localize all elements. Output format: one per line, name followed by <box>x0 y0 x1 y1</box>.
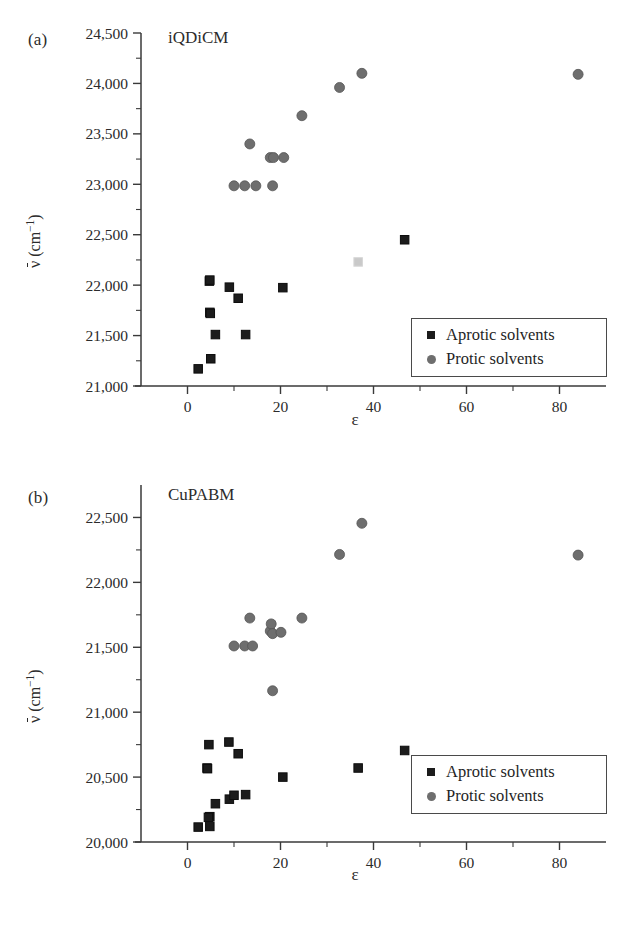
legend-label-aprotic: Aprotic solvents <box>446 762 555 782</box>
data-point-protic <box>297 613 307 623</box>
panel-a-plot: 21,00021,50022,00022,50023,00023,50024,0… <box>0 0 631 463</box>
y-tick-label: 22,500 <box>85 509 128 526</box>
data-point-aprotic <box>211 330 220 339</box>
x-tick-label: 80 <box>552 854 568 871</box>
data-point-aprotic <box>234 749 243 758</box>
data-point-protic <box>268 181 278 191</box>
panel-b-plot: 20,00020,50021,00021,50022,00022,5000204… <box>0 455 631 926</box>
data-point-aprotic <box>354 258 363 267</box>
data-point-protic <box>240 181 250 191</box>
x-tick-label: 0 <box>184 854 192 871</box>
data-point-protic <box>229 641 239 651</box>
aprotic-square-icon <box>422 331 440 339</box>
protic-circle-icon <box>422 355 440 364</box>
data-point-protic <box>357 518 367 528</box>
data-point-protic <box>279 153 289 163</box>
protic-circle-icon <box>422 792 440 801</box>
panel-a: (a) iQDiCM ν (cm−1) ε 21,00021,50022,000… <box>0 0 631 463</box>
data-point-protic <box>266 619 276 629</box>
data-point-aprotic <box>241 330 250 339</box>
legend-item-aprotic: Aprotic solvents <box>422 323 594 347</box>
data-point-aprotic <box>354 764 363 773</box>
data-point-aprotic <box>211 799 220 808</box>
data-point-aprotic <box>225 283 234 292</box>
y-tick-label: 22,500 <box>85 226 128 243</box>
legend-item-aprotic: Aprotic solvents <box>422 760 594 784</box>
y-tick-label: 21,500 <box>85 327 128 344</box>
data-point-protic <box>268 686 278 696</box>
data-point-protic <box>251 181 261 191</box>
data-point-aprotic <box>204 813 213 822</box>
y-tick-label: 23,000 <box>85 176 128 193</box>
panel-a-legend: Aprotic solvents Protic solvents <box>411 318 607 377</box>
data-point-aprotic <box>400 236 409 245</box>
x-tick-label: 0 <box>184 398 192 415</box>
x-tick-label: 40 <box>366 398 382 415</box>
data-point-aprotic <box>241 790 250 799</box>
x-tick-label: 60 <box>459 854 475 871</box>
data-point-aprotic <box>225 738 234 747</box>
panel-b: (b) CuPABM ν (cm−1) ε 20,00020,50021,000… <box>0 455 631 926</box>
data-point-protic <box>335 82 345 92</box>
data-point-protic <box>269 153 279 163</box>
y-tick-label: 22,000 <box>85 574 128 591</box>
y-tick-label: 24,000 <box>85 75 128 92</box>
y-tick-label: 23,500 <box>85 125 128 142</box>
y-tick-label: 21,000 <box>85 704 128 721</box>
x-tick-label: 20 <box>273 854 289 871</box>
y-tick-label: 21,500 <box>85 639 128 656</box>
data-point-aprotic <box>203 764 212 773</box>
legend-label-protic: Protic solvents <box>446 349 544 369</box>
data-point-aprotic <box>279 283 288 292</box>
y-tick-label: 20,000 <box>85 834 128 851</box>
y-tick-label: 20,500 <box>85 769 128 786</box>
data-point-aprotic <box>207 355 216 364</box>
legend-label-protic: Protic solvents <box>446 786 544 806</box>
data-point-aprotic <box>206 276 215 285</box>
y-tick-label: 22,000 <box>85 277 128 294</box>
data-point-aprotic <box>206 822 215 831</box>
data-point-protic <box>573 69 583 79</box>
figure-container: (a) iQDiCM ν (cm−1) ε 21,00021,50022,000… <box>0 0 631 926</box>
data-point-aprotic <box>279 773 288 782</box>
panel-b-legend: Aprotic solvents Protic solvents <box>411 755 607 814</box>
x-tick-label: 20 <box>273 398 289 415</box>
x-tick-label: 80 <box>552 398 568 415</box>
legend-item-protic: Protic solvents <box>422 784 594 808</box>
x-tick-label: 40 <box>366 854 382 871</box>
y-tick-label: 21,000 <box>85 378 128 395</box>
data-point-aprotic <box>400 746 409 755</box>
legend-item-protic: Protic solvents <box>422 347 594 371</box>
data-point-protic <box>335 549 345 559</box>
data-point-protic <box>245 613 255 623</box>
x-tick-label: 60 <box>459 398 475 415</box>
data-point-protic <box>573 550 583 560</box>
aprotic-square-icon <box>422 768 440 776</box>
data-point-aprotic <box>234 294 243 303</box>
data-point-protic <box>357 68 367 78</box>
data-point-protic <box>245 139 255 149</box>
data-point-aprotic <box>205 740 214 749</box>
data-point-aprotic <box>194 823 203 832</box>
data-point-protic <box>248 641 258 651</box>
data-point-aprotic <box>230 791 239 800</box>
data-point-protic <box>229 181 239 191</box>
data-point-protic <box>297 111 307 121</box>
data-point-aprotic <box>194 365 203 374</box>
data-point-aprotic <box>206 309 215 318</box>
y-tick-label: 24,500 <box>85 25 128 42</box>
data-point-protic <box>276 627 286 637</box>
legend-label-aprotic: Aprotic solvents <box>446 325 555 345</box>
